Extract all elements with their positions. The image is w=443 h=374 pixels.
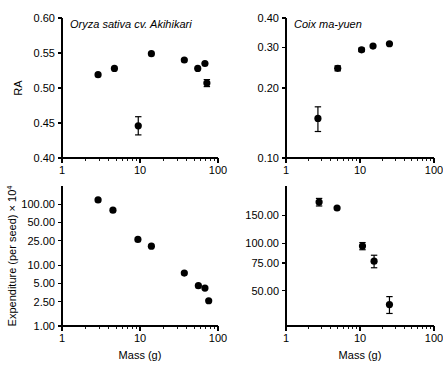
data-point bbox=[181, 270, 188, 277]
data-point bbox=[111, 65, 118, 72]
data-point bbox=[333, 204, 340, 211]
data-series bbox=[314, 40, 393, 131]
panel-bottom-left: 1.002.505.0010.0025.0050.00100.00110100M… bbox=[0, 176, 230, 374]
y-tick-label: 0.60 bbox=[34, 12, 55, 24]
panel-bottom-right: 50.0075.00100.00150.00110100Mass (g) bbox=[228, 176, 443, 374]
data-point bbox=[148, 50, 155, 57]
data-point bbox=[109, 207, 116, 214]
x-tick-label: 10 bbox=[354, 164, 366, 176]
plot-area: 0.100.200.300.40110100Coix ma-yuen bbox=[258, 12, 443, 176]
data-point bbox=[201, 60, 208, 67]
data-point bbox=[369, 42, 376, 49]
plot-area: 0.400.450.500.550.60110100Oryza sativa c… bbox=[34, 12, 228, 176]
data-point bbox=[148, 243, 155, 250]
y-tick-label: 0.45 bbox=[34, 117, 55, 129]
data-point bbox=[135, 122, 142, 129]
data-series bbox=[94, 196, 212, 304]
data-point bbox=[386, 40, 393, 47]
x-tick-label: 10 bbox=[354, 332, 366, 344]
data-point bbox=[315, 198, 322, 205]
panel-title: Coix ma-yuen bbox=[294, 18, 362, 30]
y-axis-label-exponent: 4 bbox=[5, 186, 14, 190]
y-tick-label: 50.00 bbox=[27, 216, 55, 228]
data-point bbox=[314, 115, 321, 122]
y-tick-label: 0.10 bbox=[258, 152, 279, 164]
plot-area: 50.0075.00100.00150.00110100Mass (g) bbox=[245, 186, 443, 361]
data-series bbox=[315, 198, 393, 313]
x-tick-label: 100 bbox=[209, 332, 227, 344]
data-point bbox=[134, 236, 141, 243]
data-point bbox=[94, 196, 101, 203]
y-tick-label: 10.00 bbox=[27, 259, 55, 271]
data-series bbox=[94, 50, 210, 135]
y-tick-label: 1.00 bbox=[34, 320, 55, 332]
data-point bbox=[205, 297, 212, 304]
x-axis-label: Mass (g) bbox=[339, 349, 382, 361]
y-tick-label: 5.00 bbox=[34, 277, 55, 289]
y-tick-label: 0.20 bbox=[258, 82, 279, 94]
data-point bbox=[194, 65, 201, 72]
x-tick-label: 100 bbox=[425, 332, 443, 344]
data-point bbox=[94, 71, 101, 78]
figure-container: 0.400.450.500.550.60110100Oryza sativa c… bbox=[0, 0, 443, 374]
plot-area: 1.002.505.0010.0025.0050.00100.00110100M… bbox=[21, 186, 227, 361]
x-tick-label: 1 bbox=[59, 332, 65, 344]
y-tick-label: 150.00 bbox=[245, 209, 279, 221]
x-tick-label: 1 bbox=[283, 332, 289, 344]
y-tick-label: 0.30 bbox=[258, 41, 279, 53]
y-tick-label: 2.50 bbox=[34, 296, 55, 308]
data-point bbox=[195, 282, 202, 289]
data-point bbox=[201, 284, 208, 291]
y-axis-label: RA bbox=[12, 80, 24, 96]
data-point bbox=[386, 301, 393, 308]
panel-top-right: 0.100.200.300.40110100Coix ma-yuen bbox=[228, 0, 443, 190]
y-tick-label: 50.00 bbox=[251, 285, 279, 297]
data-point bbox=[370, 258, 377, 265]
panel-top-left: 0.400.450.500.550.60110100Oryza sativa c… bbox=[0, 0, 230, 190]
x-tick-label: 100 bbox=[425, 164, 443, 176]
x-tick-label: 100 bbox=[209, 164, 227, 176]
x-tick-label: 1 bbox=[283, 164, 289, 176]
panel-title: Oryza sativa cv. Akihikari bbox=[70, 18, 192, 30]
y-tick-label: 0.40 bbox=[34, 152, 55, 164]
data-point bbox=[334, 65, 341, 72]
x-axis-label: Mass (g) bbox=[119, 349, 162, 361]
y-tick-label: 100.00 bbox=[245, 237, 279, 249]
y-tick-label: 0.40 bbox=[258, 12, 279, 24]
y-axis-label: Expenditure (per seed) × 104 bbox=[5, 186, 18, 327]
y-tick-label: 0.55 bbox=[34, 47, 55, 59]
y-tick-label: 25.00 bbox=[27, 235, 55, 247]
y-tick-label: 75.00 bbox=[251, 257, 279, 269]
x-tick-label: 10 bbox=[134, 332, 146, 344]
data-point bbox=[181, 56, 188, 63]
y-tick-label: 100.00 bbox=[21, 198, 55, 210]
y-tick-label: 0.50 bbox=[34, 82, 55, 94]
data-point bbox=[203, 80, 210, 87]
x-tick-label: 1 bbox=[59, 164, 65, 176]
data-point bbox=[359, 242, 366, 249]
x-tick-label: 10 bbox=[134, 164, 146, 176]
data-point bbox=[358, 46, 365, 53]
